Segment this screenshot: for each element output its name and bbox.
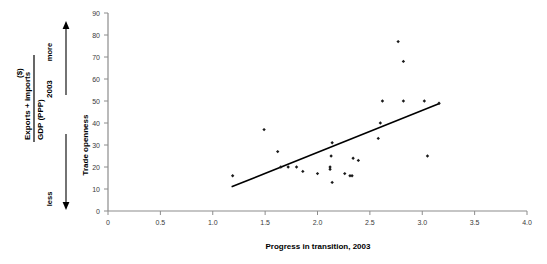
- y-caption-numerator: Exports + imports: [23, 71, 32, 140]
- data-point-marker: [357, 159, 360, 162]
- trendline: [232, 103, 440, 187]
- x-tick-label: 4.0: [522, 219, 532, 226]
- chart-figure: Exports + imports ($) GDP (PPP) 2003 mor…: [0, 0, 547, 264]
- data-points: [231, 40, 441, 184]
- data-point-marker: [301, 170, 304, 173]
- y-tick-label: 70: [92, 54, 100, 61]
- data-point-marker: [343, 172, 346, 175]
- y-caption-year: 2003: [45, 80, 54, 98]
- data-point-marker: [295, 165, 298, 168]
- y-axis-caption-group: Exports + imports ($) GDP (PPP) 2003: [15, 55, 54, 142]
- y-caption-denominator: GDP (PPP): [36, 99, 45, 140]
- data-point-marker: [231, 174, 234, 177]
- more-arrow-head: [63, 21, 70, 29]
- y-axis-ticks: 0102030405060708090: [92, 10, 108, 215]
- y-tick-label: 50: [92, 98, 100, 105]
- y-tick-label: 80: [92, 32, 100, 39]
- x-tick-label: 1.5: [260, 219, 270, 226]
- y-tick-label: 0: [96, 208, 100, 215]
- x-axis-title: Progress in transition, 2003: [266, 242, 371, 251]
- data-point-marker: [351, 157, 354, 160]
- x-tick-label: 2.5: [365, 219, 375, 226]
- data-point-marker: [402, 99, 405, 102]
- data-point-marker: [396, 40, 399, 43]
- data-point-marker: [328, 165, 331, 168]
- y-tick-label: 20: [92, 164, 100, 171]
- y-tick-label: 10: [92, 186, 100, 193]
- data-point-marker: [377, 137, 380, 140]
- data-point-marker: [379, 121, 382, 124]
- data-point-marker: [262, 128, 265, 131]
- x-tick-label: 0: [106, 219, 110, 226]
- data-point-marker: [330, 141, 333, 144]
- less-arrow-head: [63, 202, 70, 210]
- y-tick-label: 90: [92, 10, 100, 17]
- less-label: less: [45, 192, 54, 207]
- scatter-plot-svg: Exports + imports ($) GDP (PPP) 2003 mor…: [0, 0, 547, 264]
- more-label: more: [45, 43, 54, 61]
- data-point-marker: [426, 154, 429, 157]
- x-axis-ticks: 00.51.01.52.02.53.03.54.0: [106, 211, 532, 226]
- data-point-marker: [402, 60, 405, 63]
- data-point-marker: [329, 154, 332, 157]
- data-point-marker: [350, 174, 353, 177]
- y-caption-unit: ($): [15, 68, 24, 78]
- trendline-segment: [232, 103, 440, 187]
- less-direction-group: less: [45, 134, 69, 210]
- y-tick-label: 40: [92, 120, 100, 127]
- y-axis-title: Trade openness: [81, 114, 90, 175]
- y-tick-label: 30: [92, 142, 100, 149]
- data-point-marker: [276, 150, 279, 153]
- data-point-marker: [316, 172, 319, 175]
- data-point-marker: [381, 99, 384, 102]
- x-tick-label: 1.0: [208, 219, 218, 226]
- data-point-marker: [423, 99, 426, 102]
- data-point-marker: [286, 165, 289, 168]
- data-point-marker: [330, 181, 333, 184]
- x-tick-label: 0.5: [156, 219, 166, 226]
- x-tick-label: 2.0: [313, 219, 323, 226]
- y-tick-label: 60: [92, 76, 100, 83]
- x-tick-label: 3.0: [417, 219, 427, 226]
- x-tick-label: 3.5: [470, 219, 480, 226]
